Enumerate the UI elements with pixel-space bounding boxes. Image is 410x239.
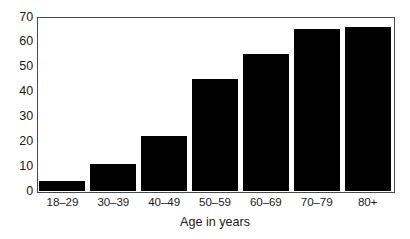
x-axis-tick-label: 70–79: [291, 195, 342, 208]
bar: [294, 29, 340, 191]
x-axis-tick-label: 18–29: [37, 195, 88, 208]
bar: [243, 54, 289, 191]
x-axis-title: Age in years: [37, 215, 393, 229]
y-axis-tick-label: 30: [2, 110, 33, 123]
y-axis-tick-label: 20: [2, 135, 33, 148]
x-axis: 18–2930–3940–4950–5960–6970–7980+: [37, 195, 393, 211]
bar: [39, 181, 85, 191]
y-axis-tick-label: 60: [2, 35, 33, 48]
x-axis-tick-label: 30–39: [88, 195, 139, 208]
bar: [345, 27, 391, 191]
bar: [141, 136, 187, 191]
bars-group: [37, 17, 393, 191]
bar: [192, 79, 238, 191]
y-axis-tick-label: 40: [2, 85, 33, 98]
x-axis-tick-label: 80+: [342, 195, 393, 208]
y-axis-tick-label: 0: [2, 185, 33, 198]
x-axis-tick-label: 60–69: [240, 195, 291, 208]
bar: [90, 164, 136, 191]
y-axis-tick-label: 70: [2, 11, 33, 24]
bar-chart-figure: 010203040506070 18–2930–3940–4950–5960–6…: [0, 0, 410, 239]
x-axis-tick-label: 50–59: [190, 195, 241, 208]
x-axis-tick-label: 40–49: [139, 195, 190, 208]
y-axis-tick-label: 10: [2, 160, 33, 173]
y-axis: 010203040506070: [0, 0, 33, 239]
y-axis-tick-label: 50: [2, 60, 33, 73]
